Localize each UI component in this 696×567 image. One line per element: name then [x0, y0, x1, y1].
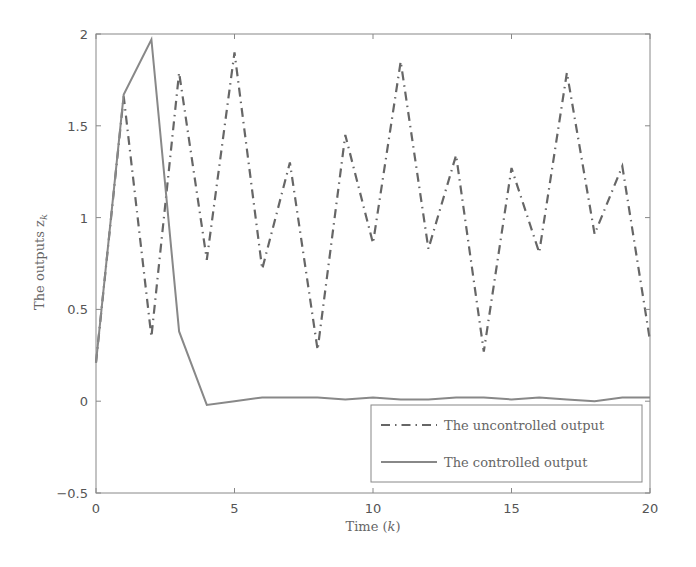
- x-tick-label: 15: [503, 501, 520, 516]
- x-tick-label: 10: [365, 501, 382, 516]
- series-line-1: [96, 40, 650, 405]
- y-tick-label: 0: [80, 394, 88, 409]
- y-axis-label: The outputs zk: [32, 214, 49, 310]
- y-tick-label: 0.5: [67, 302, 88, 317]
- legend-label-0: The uncontrolled output: [444, 418, 605, 433]
- x-tick-label: 5: [230, 501, 238, 516]
- series-layer: [96, 40, 650, 405]
- y-tick-label: 1: [80, 211, 88, 226]
- y-tick-label: −0.5: [56, 486, 88, 501]
- line-chart: 05101520−0.500.511.52 Time (k) The outpu…: [0, 0, 696, 567]
- y-tick-label: 2: [80, 27, 88, 42]
- legend-label-1: The controlled output: [444, 455, 588, 470]
- legend: The uncontrolled outputThe controlled ou…: [371, 405, 642, 482]
- x-tick-label: 0: [92, 501, 100, 516]
- series-line-0: [96, 52, 650, 362]
- x-tick-label: 20: [642, 501, 659, 516]
- y-tick-label: 1.5: [67, 119, 88, 134]
- x-axis-label: Time (k): [345, 519, 400, 534]
- legend-box: [371, 405, 642, 482]
